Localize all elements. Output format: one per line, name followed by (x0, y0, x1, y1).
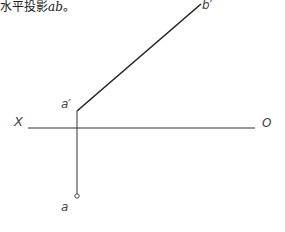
point-a-marker (75, 194, 79, 198)
label-a: a (61, 200, 68, 214)
axis-label-x: X (13, 114, 24, 129)
projection-diagram: X O a′ b′ a (0, 0, 285, 232)
axis-label-o: O (262, 116, 271, 130)
label-b-prime: b′ (202, 0, 213, 12)
label-a-prime: a′ (61, 97, 71, 111)
line-a-prime-b-prime (77, 4, 201, 111)
